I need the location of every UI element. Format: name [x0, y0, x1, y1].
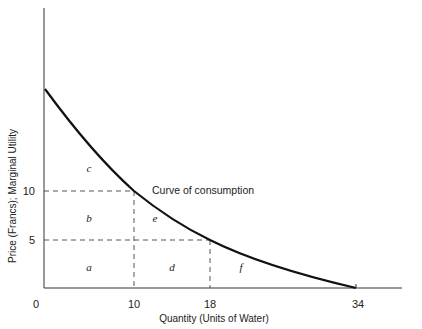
area-label-b: b	[86, 212, 92, 224]
area-label-e: e	[153, 212, 158, 224]
area-label-c: c	[87, 162, 92, 174]
reference-lines	[44, 191, 210, 288]
area-label-f: f	[239, 261, 244, 273]
x-axis-title: Quantity (Units of Water)	[159, 313, 269, 324]
demand-chart: 0 10 18 34 10 5 Quantity (Units of Water…	[0, 0, 422, 329]
x-tick-34: 34	[352, 298, 364, 310]
area-label-a: a	[86, 261, 92, 273]
x-tick-0: 0	[33, 298, 39, 310]
x-tick-10: 10	[128, 298, 140, 310]
y-tick-5: 5	[29, 234, 35, 246]
x-tick-18: 18	[204, 298, 216, 310]
curve-label: Curve of consumption	[152, 184, 254, 196]
y-axis-title: Price (Francs); Marginal Utility	[7, 129, 18, 263]
area-label-d: d	[169, 261, 175, 273]
y-tick-10: 10	[23, 185, 35, 197]
